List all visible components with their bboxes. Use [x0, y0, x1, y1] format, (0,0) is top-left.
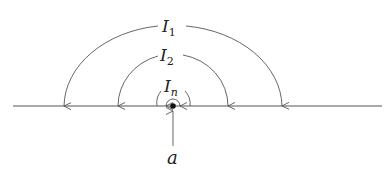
nested-intervals-diagram: I1 I2 In a	[0, 0, 387, 194]
label-i2: I2	[159, 45, 174, 68]
label-a: a	[167, 147, 178, 168]
label-in: In	[163, 76, 178, 99]
point-a-dot	[170, 103, 176, 109]
label-i1: I1	[161, 16, 176, 39]
